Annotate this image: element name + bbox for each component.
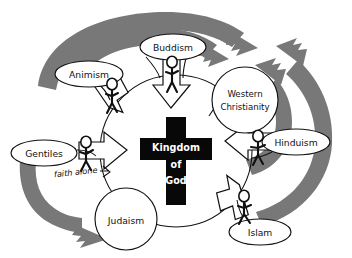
- node-label-islam: Islam: [248, 227, 273, 238]
- center-label-line1: Kingdom: [152, 142, 200, 153]
- node-label-animism: Animism: [69, 69, 109, 80]
- node-label-western-christianity-line2: Christianity: [220, 102, 269, 112]
- node-label-hinduism: Hinduism: [274, 137, 317, 148]
- node-label-western-christianity-line1: Western: [227, 89, 262, 99]
- center-label-line2: of: [171, 159, 183, 170]
- node-western-christianity[interactable]: [212, 67, 278, 133]
- diagram-canvas: Western Christianity Judaism Buddism Ani…: [0, 0, 352, 258]
- node-label-gentiles: Gentiles: [25, 148, 63, 159]
- religions-kingdom-of-god-diagram: Western Christianity Judaism Buddism Ani…: [0, 0, 352, 258]
- center-label-line3: God: [165, 175, 186, 186]
- node-label-buddism: Buddism: [153, 42, 193, 53]
- node-label-judaism: Judaism: [107, 215, 144, 226]
